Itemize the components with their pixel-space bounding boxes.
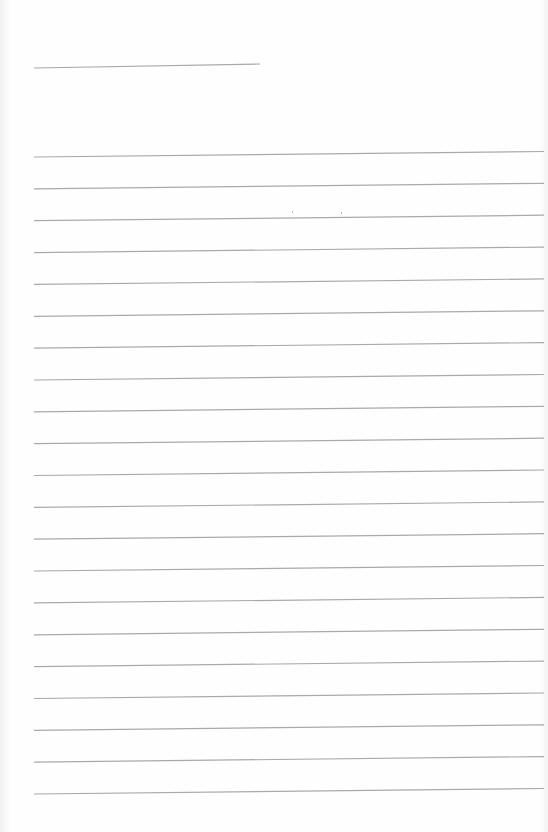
ruled-line bbox=[34, 247, 544, 253]
ruled-line bbox=[34, 470, 544, 476]
ruled-line bbox=[34, 343, 544, 349]
header-line bbox=[34, 64, 260, 68]
ruled-line bbox=[34, 215, 544, 221]
ruled-line bbox=[34, 406, 544, 412]
ruled-line bbox=[34, 152, 544, 158]
ruled-line bbox=[34, 534, 544, 540]
lined-paper-page bbox=[0, 0, 548, 832]
ruled-line bbox=[34, 375, 544, 381]
ruled-line bbox=[34, 725, 544, 731]
ruled-lines bbox=[0, 0, 548, 832]
ruled-line bbox=[34, 311, 544, 317]
ruled-line bbox=[34, 693, 544, 699]
ruled-line bbox=[34, 566, 544, 572]
ruled-line bbox=[34, 183, 544, 189]
ruled-line bbox=[34, 279, 544, 285]
ruled-line-group bbox=[34, 152, 544, 795]
ruled-line bbox=[34, 629, 544, 635]
ruled-line bbox=[34, 661, 544, 667]
ruled-line bbox=[34, 502, 544, 508]
ruled-line bbox=[34, 597, 544, 603]
ruled-line bbox=[34, 757, 544, 763]
ruled-line bbox=[34, 789, 544, 795]
paper-speck bbox=[292, 211, 293, 213]
paper-speck bbox=[341, 212, 342, 214]
ruled-line bbox=[34, 438, 544, 444]
